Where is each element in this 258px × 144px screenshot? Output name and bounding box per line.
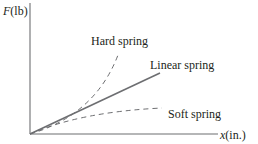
hard-spring-curve [30, 55, 118, 134]
spring-force-diagram [0, 0, 258, 144]
y-axis-unit: (lb) [10, 4, 27, 18]
hard-spring-label: Hard spring [91, 35, 148, 47]
x-axis-unit: (in.) [225, 128, 245, 142]
soft-spring-label: Soft spring [168, 108, 221, 120]
linear-spring-label: Linear spring [150, 59, 214, 71]
x-axis-label: x(in.) [220, 129, 246, 141]
linear-spring-line [30, 73, 160, 134]
y-axis-label: F(lb) [3, 5, 28, 17]
soft-spring-curve [30, 108, 162, 134]
